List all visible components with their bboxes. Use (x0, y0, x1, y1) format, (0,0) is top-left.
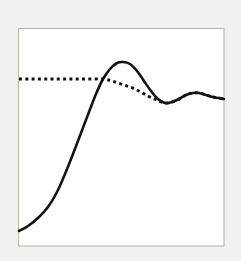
figure-container (0, 0, 241, 261)
line-chart (0, 0, 241, 261)
